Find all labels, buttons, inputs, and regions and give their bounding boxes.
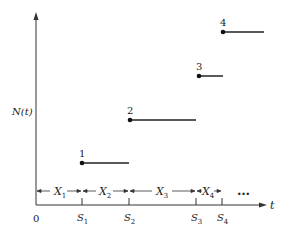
svg-text:X3: X3 (155, 185, 168, 200)
continuation-ellipsis: … (237, 183, 250, 198)
step-value-labels: 1 2 3 4 (79, 17, 226, 159)
counting-process-diagram: t N(t) 0 S1 S2 S3 S4 X1 X2 X3 X4 … (0, 0, 285, 234)
svg-text:S1: S1 (77, 212, 88, 226)
y-axis-arrow-icon (34, 12, 39, 20)
svg-text:S3: S3 (191, 212, 202, 226)
step-function (80, 30, 264, 166)
svg-text:S4: S4 (217, 212, 229, 226)
svg-text:X1: X1 (53, 185, 66, 200)
x-axis-label: t (270, 199, 275, 212)
svg-text:X2: X2 (98, 185, 111, 200)
y-axis-label: N(t) (11, 106, 33, 117)
svg-text:4: 4 (220, 17, 226, 28)
svg-text:2: 2 (127, 105, 133, 116)
svg-text:S2: S2 (124, 212, 135, 226)
svg-text:X4: X4 (201, 185, 215, 200)
svg-text:3: 3 (196, 61, 202, 72)
arrival-time-labels: S1 S2 S3 S4 (77, 212, 229, 226)
origin-label: 0 (33, 213, 39, 224)
x-axis-arrow-icon (259, 203, 267, 208)
arrival-ticks (82, 198, 222, 205)
svg-text:1: 1 (79, 148, 85, 159)
